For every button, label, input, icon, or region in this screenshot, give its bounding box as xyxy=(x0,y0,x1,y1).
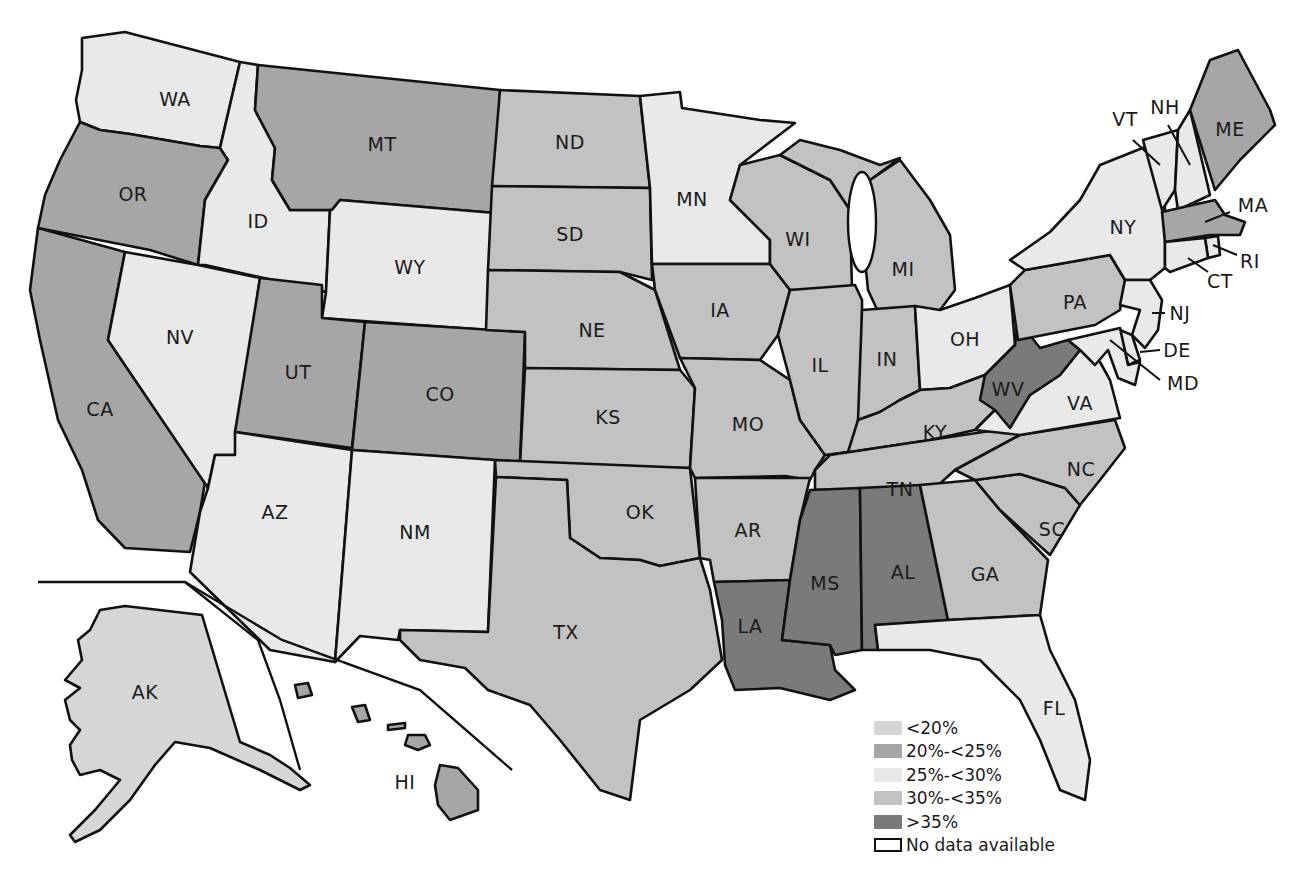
state-ny[interactable] xyxy=(1010,145,1165,280)
state-hi-oahu[interactable] xyxy=(352,705,370,722)
legend-label: 25%-<30% xyxy=(906,765,1002,785)
legend-swatch xyxy=(874,815,902,829)
label-tn: TN xyxy=(886,478,914,500)
label-mn: MN xyxy=(676,188,708,210)
label-nm: NM xyxy=(399,521,431,543)
legend-label: >35% xyxy=(906,812,958,832)
label-va: VA xyxy=(1067,392,1093,414)
state-hi-molokai[interactable] xyxy=(388,723,405,730)
label-il: IL xyxy=(811,354,828,376)
label-mi: MI xyxy=(892,258,915,280)
label-or: OR xyxy=(118,183,147,205)
state-az[interactable] xyxy=(190,432,352,662)
label-ks: KS xyxy=(595,406,621,428)
label-hi: HI xyxy=(395,771,416,793)
legend: <20% 20%-<25% 25%-<30% 30%-<35% >35% No … xyxy=(874,716,1055,857)
label-wi: WI xyxy=(785,228,810,250)
label-co: CO xyxy=(425,383,454,405)
legend-item-lt20: <20% xyxy=(874,716,1055,740)
label-wv: WV xyxy=(992,378,1025,400)
label-sd: SD xyxy=(556,223,584,245)
legend-item-gt35: >35% xyxy=(874,810,1055,834)
label-oh: OH xyxy=(950,328,980,350)
label-tx: TX xyxy=(552,621,579,643)
lake-michigan xyxy=(848,172,876,272)
state-hi-kauai[interactable] xyxy=(295,683,312,698)
state-hi-maui[interactable] xyxy=(405,735,430,750)
label-ms: MS xyxy=(810,572,839,594)
label-wy: WY xyxy=(394,256,425,278)
legend-swatch xyxy=(874,721,902,735)
label-al: AL xyxy=(891,561,916,583)
legend-label: 30%-<35% xyxy=(906,788,1002,808)
legend-label: 20%-<25% xyxy=(906,741,1002,761)
label-nd: ND xyxy=(555,131,585,153)
label-nh: NH xyxy=(1150,96,1180,118)
legend-swatch xyxy=(874,744,902,758)
label-ia: IA xyxy=(710,299,730,321)
legend-item-nodata: No data available xyxy=(874,834,1055,858)
legend-swatch xyxy=(874,768,902,782)
label-mt: MT xyxy=(368,133,397,155)
label-in: IN xyxy=(877,348,898,370)
label-pa: PA xyxy=(1063,291,1087,313)
us-choropleth-map: WA OR CA ID NV MT WY UT CO AZ NM ND SD N… xyxy=(0,0,1298,877)
label-ak: AK xyxy=(132,681,158,703)
label-me: ME xyxy=(1215,118,1244,140)
state-hi-big-island[interactable] xyxy=(435,765,478,820)
label-nc: NC xyxy=(1067,458,1095,480)
label-wa: WA xyxy=(159,88,191,110)
legend-swatch xyxy=(874,838,902,852)
label-ut: UT xyxy=(285,361,312,383)
legend-item-25to30: 25%-<30% xyxy=(874,763,1055,787)
legend-label: <20% xyxy=(906,718,958,738)
label-ne: NE xyxy=(578,319,605,341)
label-de: DE xyxy=(1163,339,1191,361)
label-ny: NY xyxy=(1110,216,1137,238)
label-nj: NJ xyxy=(1170,302,1191,324)
label-vt: VT xyxy=(1112,108,1138,130)
label-ga: GA xyxy=(971,563,1000,585)
state-ma[interactable] xyxy=(1162,200,1245,242)
label-nv: NV xyxy=(166,326,194,348)
label-sc: SC xyxy=(1039,518,1065,540)
label-ky: KY xyxy=(923,421,947,443)
label-mo: MO xyxy=(732,413,764,435)
legend-label: No data available xyxy=(906,835,1055,855)
legend-item-20to25: 20%-<25% xyxy=(874,740,1055,764)
label-md: MD xyxy=(1167,372,1199,394)
label-ca: CA xyxy=(86,398,113,420)
label-ma: MA xyxy=(1238,194,1268,216)
label-az: AZ xyxy=(261,501,288,523)
label-ar: AR xyxy=(734,519,761,541)
legend-swatch xyxy=(874,791,902,805)
label-la: LA xyxy=(737,615,762,637)
label-ri: RI xyxy=(1240,250,1260,272)
label-id: ID xyxy=(247,210,268,232)
label-ok: OK xyxy=(626,501,654,523)
legend-item-30to35: 30%-<35% xyxy=(874,787,1055,811)
label-ct: CT xyxy=(1207,270,1233,292)
